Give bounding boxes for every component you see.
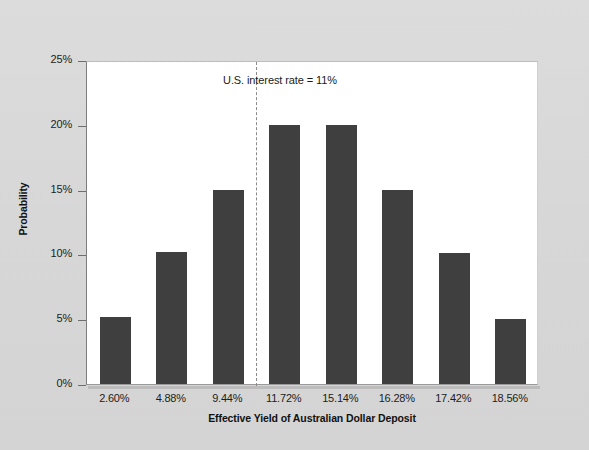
y-axis-tick: 25% bbox=[0, 61, 86, 62]
x-axis-tick-label: 9.44% bbox=[212, 392, 242, 404]
bar bbox=[269, 125, 300, 384]
x-axis-tick-label: 16.28% bbox=[379, 392, 415, 404]
bar bbox=[326, 125, 357, 384]
y-axis-tick: 20% bbox=[0, 126, 86, 127]
y-axis-tick-mark bbox=[78, 385, 86, 386]
bar bbox=[495, 319, 526, 384]
y-axis-tick: 15% bbox=[0, 191, 86, 192]
y-axis-title: Probability bbox=[17, 159, 29, 259]
y-axis-tick-label: 0% bbox=[57, 377, 73, 389]
y-axis-tick-label: 25% bbox=[51, 53, 72, 65]
y-axis-tick-label: 20% bbox=[51, 118, 72, 130]
x-axis-tick-label: 15.14% bbox=[322, 392, 358, 404]
us-interest-rate-reference-label: U.S. interest rate = 11% bbox=[223, 74, 337, 86]
y-axis-tick: 0% bbox=[0, 385, 86, 386]
y-axis-tick: 5% bbox=[0, 320, 86, 321]
y-axis-tick: 10% bbox=[0, 255, 86, 256]
bar bbox=[100, 317, 131, 384]
x-axis-tick-label: 18.56% bbox=[492, 392, 528, 404]
bar bbox=[213, 190, 244, 384]
y-axis-tick-mark bbox=[78, 126, 86, 127]
bar bbox=[439, 253, 470, 384]
x-axis-title: Effective Yield of Australian Dollar Dep… bbox=[86, 412, 538, 424]
y-axis-tick-label: 10% bbox=[51, 247, 72, 259]
y-axis-tick-label: 15% bbox=[51, 183, 72, 195]
us-interest-rate-reference-line bbox=[256, 62, 257, 386]
y-axis-tick-label: 5% bbox=[57, 312, 73, 324]
x-axis-tick-label: 11.72% bbox=[266, 392, 301, 404]
bar bbox=[382, 190, 413, 384]
plot-area bbox=[86, 61, 538, 385]
plot-area-shadow bbox=[88, 386, 540, 389]
bar bbox=[156, 252, 187, 384]
probability-distribution-chart: Probability 0%5%10%15%20%25% 2.60%4.88%9… bbox=[0, 8, 589, 443]
y-axis-tick-mark bbox=[78, 61, 86, 62]
y-axis-tick-mark bbox=[78, 320, 86, 321]
x-axis-tick-label: 4.88% bbox=[156, 392, 186, 404]
x-axis-tick-label: 2.60% bbox=[99, 392, 129, 404]
y-axis-tick-mark bbox=[78, 255, 86, 256]
y-axis-tick-mark bbox=[78, 191, 86, 192]
x-axis-tick-label: 17.42% bbox=[435, 392, 471, 404]
